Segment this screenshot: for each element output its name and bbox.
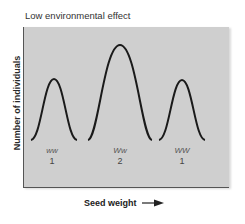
ratio-label-Ww: 2 xyxy=(105,156,135,166)
curve-ww xyxy=(31,79,77,140)
genotype-label-ww: ww xyxy=(37,146,67,155)
ratio-label-ww: 1 xyxy=(37,156,67,166)
ratio-label-WW: 1 xyxy=(167,156,197,166)
curve-Ww xyxy=(88,45,152,140)
figure-title: Low environmental effect xyxy=(25,10,130,21)
x-axis-label-group: Seed weight xyxy=(84,198,164,208)
x-axis-label: Seed weight xyxy=(84,198,137,208)
curve-WW xyxy=(159,80,205,140)
arrow-right-icon xyxy=(142,199,164,207)
genotype-label-Ww: Ww xyxy=(105,146,135,155)
genotype-label-WW: WW xyxy=(167,146,197,155)
plot-area: ww 1 Ww 2 WW 1 xyxy=(23,27,229,188)
y-axis-label: Number of individuals xyxy=(12,48,22,158)
